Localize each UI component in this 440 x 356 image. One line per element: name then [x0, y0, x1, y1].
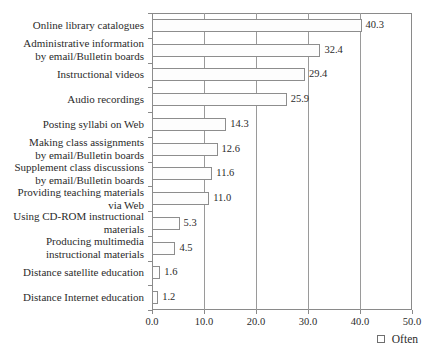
bar-value-label: 5.3	[180, 216, 197, 230]
category-label: Posting syllabi on Web	[0, 118, 144, 131]
y-tick	[148, 285, 152, 286]
bar-chart: 40.332.429.425.914.312.611.611.05.34.51.…	[0, 0, 440, 356]
bar-value-label: 11.6	[212, 166, 234, 180]
y-tick	[148, 87, 152, 88]
x-tick-label: 0.0	[132, 315, 172, 328]
category-label: Using CD-ROM instructional materials	[0, 210, 144, 236]
category-label: Distance Internet education	[0, 291, 144, 304]
y-tick	[148, 236, 152, 237]
x-tick-mark	[152, 310, 153, 314]
x-tick-label: 10.0	[184, 315, 224, 328]
bar-value-label: 1.6	[160, 265, 177, 279]
bar-row: 40.3	[152, 19, 412, 32]
bar	[152, 44, 320, 57]
bar	[152, 167, 212, 180]
bar	[152, 192, 209, 205]
x-tick-mark	[412, 310, 413, 314]
bar-row: 25.9	[152, 93, 412, 106]
bar-row: 5.3	[152, 217, 412, 230]
bar	[152, 19, 362, 32]
bar-row: 11.6	[152, 167, 412, 180]
y-tick	[148, 63, 152, 64]
bar	[152, 242, 175, 255]
category-label: Distance satellite education	[0, 266, 144, 279]
legend: Often	[377, 333, 418, 345]
legend-label: Often	[392, 333, 418, 345]
bar-value-label: 14.3	[226, 117, 248, 131]
bar-value-label: 1.2	[158, 290, 175, 304]
x-tick-mark	[256, 310, 257, 314]
category-label: Administrative information by email/Bull…	[0, 37, 144, 63]
x-tick-mark	[360, 310, 361, 314]
x-tick-label: 50.0	[392, 315, 432, 328]
y-tick	[148, 137, 152, 138]
bar-value-label: 12.6	[218, 142, 240, 156]
category-label: Online library catalogues	[0, 19, 144, 32]
category-label: Audio recordings	[0, 93, 144, 106]
y-tick	[148, 112, 152, 113]
bar-value-label: 11.0	[209, 191, 231, 205]
x-tick-label: 40.0	[340, 315, 380, 328]
y-tick	[148, 261, 152, 262]
x-tick-mark	[308, 310, 309, 314]
bar-value-label: 32.4	[320, 43, 342, 57]
bar-row: 4.5	[152, 242, 412, 255]
bar-row: 1.2	[152, 291, 412, 304]
x-tick-label: 20.0	[236, 315, 276, 328]
y-tick	[148, 13, 152, 14]
y-tick	[148, 211, 152, 212]
bar-row: 14.3	[152, 118, 412, 131]
bar	[152, 266, 160, 279]
bar-row: 29.4	[152, 68, 412, 81]
bar-value-label: 4.5	[175, 241, 192, 255]
category-label: Supplement class discussions by email/Bu…	[0, 161, 144, 187]
bar	[152, 118, 226, 131]
category-label: Producing multimedia instructional mater…	[0, 235, 144, 261]
legend-swatch-icon	[377, 335, 385, 343]
y-tick	[148, 162, 152, 163]
bar-value-label: 25.9	[287, 92, 309, 106]
bar	[152, 68, 305, 81]
x-tick-label: 30.0	[288, 315, 328, 328]
bar-row: 12.6	[152, 143, 412, 156]
bar	[152, 217, 180, 230]
bar	[152, 93, 287, 106]
bar-value-label: 40.3	[362, 18, 384, 32]
bar-row: 11.0	[152, 192, 412, 205]
category-label: Providing teaching materials via Web	[0, 186, 144, 212]
y-tick	[148, 186, 152, 187]
bar-row: 1.6	[152, 266, 412, 279]
y-tick	[148, 38, 152, 39]
category-label: Instructional videos	[0, 68, 144, 81]
x-tick-mark	[204, 310, 205, 314]
bar	[152, 143, 218, 156]
category-label: Making class assignments by email/Bullet…	[0, 136, 144, 162]
bar-row: 32.4	[152, 44, 412, 57]
bar-value-label: 29.4	[305, 67, 327, 81]
